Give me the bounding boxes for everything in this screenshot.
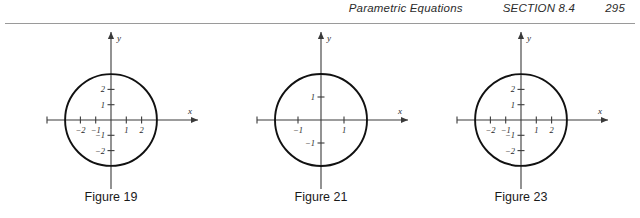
figure-canvas: −111−1xy [216, 26, 426, 194]
x-tick-label: 1 [342, 125, 346, 135]
x-axis-arrowhead [601, 117, 608, 123]
running-header: Parametric Equations SECTION 8.4 295 [0, 0, 640, 26]
figure-caption: Figure 23 [416, 190, 626, 204]
x-axis-label: x [187, 106, 192, 116]
x-tick-label: −2 [75, 125, 86, 135]
x-axis-label: x [397, 106, 402, 116]
y-tick-label: −1 [305, 138, 315, 148]
y-tick-label: −2 [505, 146, 516, 156]
header-page-number: 295 [605, 2, 625, 14]
header-chapter-title: Parametric Equations [349, 2, 463, 14]
x-tick-label: −1 [293, 125, 303, 135]
y-tick-label: 1 [101, 100, 105, 110]
figure-caption: Figure 21 [216, 190, 426, 204]
y-axis-arrowhead [318, 32, 324, 39]
y-tick-label: −1 [505, 130, 515, 140]
y-axis-label: y [326, 33, 331, 43]
y-tick-label: 1 [311, 92, 315, 102]
figure-block: −2−11221−1−2xy Figure 23 [416, 26, 626, 218]
figure-canvas: −2−11221−1−2xy [416, 26, 626, 194]
x-axis-label: x [597, 106, 602, 116]
y-tick-label: 1 [511, 100, 515, 110]
figure-block: −2−11221−1−2xy Figure 19 [6, 26, 216, 218]
figure-canvas: −2−11221−1−2xy [6, 26, 216, 194]
y-axis-arrowhead [518, 32, 524, 39]
y-axis-arrowhead [108, 32, 114, 39]
x-axis-arrowhead [191, 117, 198, 123]
y-axis-label: y [116, 33, 121, 43]
y-tick-label: −1 [95, 130, 105, 140]
header-text-row: Parametric Equations SECTION 8.4 295 [349, 2, 625, 14]
x-tick-label: 2 [139, 125, 144, 135]
y-tick-label: 2 [511, 84, 516, 94]
y-tick-label: −2 [95, 146, 106, 156]
x-tick-label: 1 [124, 125, 128, 135]
x-tick-label: 1 [534, 125, 538, 135]
x-tick-label: −2 [485, 125, 496, 135]
figure-plot: −2−11221−1−2xy [416, 26, 626, 194]
figure-caption: Figure 19 [6, 190, 216, 204]
y-axis-label: y [526, 33, 531, 43]
figure-plot: −111−1xy [216, 26, 426, 194]
figure-row: −2−11221−1−2xy Figure 19 −111−1xy Figure… [0, 26, 640, 218]
header-divider-rule [5, 23, 635, 24]
x-axis-arrowhead [401, 117, 408, 123]
y-tick-label: 2 [101, 84, 106, 94]
x-tick-label: 2 [549, 125, 554, 135]
figure-plot: −2−11221−1−2xy [6, 26, 216, 194]
header-section-label: SECTION 8.4 [503, 2, 576, 14]
figure-block: −111−1xy Figure 21 [216, 26, 426, 218]
